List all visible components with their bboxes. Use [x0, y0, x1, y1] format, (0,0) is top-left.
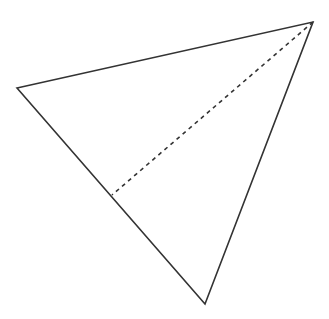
dashed-segment — [112, 22, 313, 195]
triangle-diagram — [0, 0, 329, 319]
triangle — [17, 22, 313, 304]
diagram-svg — [0, 0, 329, 319]
